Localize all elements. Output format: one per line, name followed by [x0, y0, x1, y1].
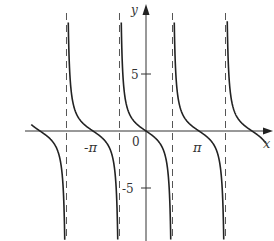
- y-tick-label-neg5: -5: [122, 182, 134, 196]
- origin-label: 0: [132, 135, 140, 149]
- y-axis-label: y: [130, 3, 138, 17]
- x-tick-label-neg-pi: -π: [84, 140, 97, 155]
- axes: [25, 4, 273, 241]
- x-tick-label-pi: π: [192, 140, 202, 155]
- tangent-graph: y x 0 5 -5 -π π: [0, 0, 274, 241]
- curve-branch: [227, 21, 266, 143]
- y-tick-label-5: 5: [131, 68, 139, 82]
- y-axis-arrow-icon: [143, 4, 150, 15]
- x-axis-label: x: [263, 136, 271, 151]
- curve-branch: [31, 125, 64, 240]
- axis-labels: y x 0 5 -5 -π π: [84, 3, 271, 196]
- x-axis-arrow-icon: [263, 128, 273, 135]
